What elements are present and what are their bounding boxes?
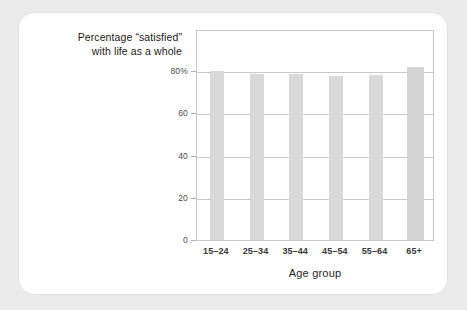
bar-25–34 xyxy=(250,74,264,240)
y-tick-20 xyxy=(191,198,196,199)
y-tick-label-20: 20 xyxy=(158,193,188,203)
x-axis-title: Age group xyxy=(196,267,434,279)
bar-45–54 xyxy=(329,76,343,240)
x-tick-label-55–64: 55–64 xyxy=(353,246,397,256)
y-tick-label-60: 60 xyxy=(158,108,188,118)
y-tick-60 xyxy=(191,113,196,114)
bar-15–24 xyxy=(210,71,224,240)
x-tick-label-25–34: 25–34 xyxy=(234,246,278,256)
gridline-60 xyxy=(197,114,433,115)
y-tick-80 xyxy=(191,71,196,72)
gridline-20 xyxy=(197,199,433,200)
gridline-80 xyxy=(197,72,433,73)
x-tick-label-35–44: 35–44 xyxy=(273,246,317,256)
x-tick-label-65+: 65+ xyxy=(392,246,436,256)
y-tick-0 xyxy=(191,240,196,241)
y-tick-label-40: 40 xyxy=(158,151,188,161)
bar-65+ xyxy=(407,67,424,240)
x-tick-label-45–54: 45–54 xyxy=(313,246,357,256)
screenshot-root: Percentage “satisfied” with life as a wh… xyxy=(0,0,467,310)
y-tick-40 xyxy=(191,156,196,157)
y-tick-label-80: 80% xyxy=(158,66,188,76)
plot-inner xyxy=(197,31,433,240)
bar-35–44 xyxy=(289,74,303,240)
bar-55–64 xyxy=(369,75,383,240)
y-tick-label-0: 0 xyxy=(158,235,188,245)
plot-area xyxy=(196,30,434,241)
y-axis-labels: 020406080% xyxy=(155,0,188,310)
x-tick-label-15–24: 15–24 xyxy=(194,246,238,256)
gridline-40 xyxy=(197,157,433,158)
